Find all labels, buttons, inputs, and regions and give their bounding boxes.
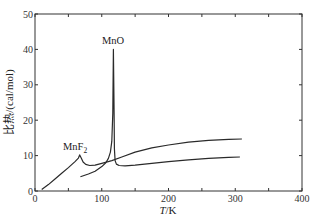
y-tick-label: 10 xyxy=(23,150,33,161)
label-mno: MnO xyxy=(102,35,125,46)
chart: 0100200300400 01020304050 MnOMnF2 T/K 比热… xyxy=(0,0,318,220)
x-tick-label: 300 xyxy=(228,193,243,204)
y-axis-title: 比热/(cal/mol) xyxy=(3,69,16,135)
x-tick-label: 200 xyxy=(161,193,176,204)
x-tick-label: 100 xyxy=(94,193,109,204)
series-line-mno xyxy=(80,49,240,176)
y-tick-label: 50 xyxy=(23,9,33,20)
x-axis-title: T/K xyxy=(159,204,176,216)
y-tick-label: 30 xyxy=(23,79,33,90)
x-axis-ticks: 0100200300400 xyxy=(33,14,310,204)
x-tick-label: 400 xyxy=(295,193,310,204)
series-group xyxy=(42,49,242,189)
plot-frame xyxy=(35,14,302,191)
y-tick-label: 0 xyxy=(28,186,33,197)
y-axis-ticks: 01020304050 xyxy=(23,9,302,197)
label-mnf2: MnF2 xyxy=(63,141,87,155)
y-tick-label: 40 xyxy=(23,44,33,55)
series-labels: MnOMnF2 xyxy=(63,35,125,155)
x-tick-label: 0 xyxy=(33,193,38,204)
y-tick-label: 20 xyxy=(23,115,33,126)
